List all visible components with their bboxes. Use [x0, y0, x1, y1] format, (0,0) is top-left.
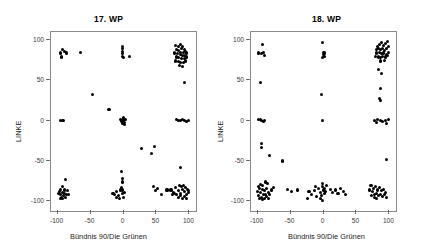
data-point — [64, 196, 67, 199]
data-point — [150, 152, 153, 155]
data-point — [266, 182, 269, 185]
y-axis-tick — [46, 39, 50, 40]
data-point — [57, 192, 60, 195]
data-point — [152, 185, 155, 188]
y-axis-tick — [246, 39, 250, 40]
y-axis-tick — [246, 120, 250, 121]
plot-frame — [50, 31, 197, 212]
data-point — [91, 93, 94, 96]
x-axis-tick-label: -100 — [250, 217, 263, 224]
y-axis-tick — [46, 79, 50, 80]
data-point — [118, 197, 121, 200]
plot-area — [251, 32, 396, 211]
data-point — [179, 166, 182, 169]
data-point — [265, 187, 268, 190]
data-point — [261, 198, 264, 201]
x-axis-tick — [290, 210, 291, 214]
y-axis-tick-label: 50 — [218, 76, 244, 83]
data-point — [290, 190, 293, 193]
data-point — [320, 93, 323, 96]
data-point — [65, 51, 68, 54]
data-point — [185, 51, 188, 54]
data-point — [187, 191, 190, 194]
data-point — [62, 119, 65, 122]
data-point — [263, 119, 266, 122]
data-point — [380, 72, 383, 75]
data-point — [281, 159, 284, 162]
data-point — [375, 197, 378, 200]
data-point — [385, 196, 388, 199]
data-point — [123, 123, 126, 126]
x-axis-tick-label: -50 — [85, 217, 95, 224]
chart-panel-17-wp: 17. WP LINKE Bündnis 90/Die Grünen 10050… — [0, 0, 217, 251]
data-point — [387, 45, 390, 48]
y-axis-tick-label: 100 — [18, 36, 44, 43]
data-point — [268, 154, 271, 157]
x-axis-tick-label: 100 — [183, 217, 194, 224]
x-axis-tick-label: 100 — [383, 217, 394, 224]
data-point — [140, 147, 143, 150]
x-axis-tick — [355, 210, 356, 214]
data-point — [115, 196, 118, 199]
y-axis-tick-label: 100 — [218, 36, 244, 43]
data-point — [184, 59, 187, 62]
data-point — [272, 186, 275, 189]
data-point — [267, 197, 270, 200]
data-point — [321, 56, 324, 59]
data-point — [321, 199, 324, 202]
x-axis-title: Bündnis 90/Die Grünen — [218, 232, 435, 241]
y-axis-title: LINKE — [14, 121, 23, 142]
data-point — [375, 121, 378, 124]
data-point — [171, 193, 174, 196]
data-point — [315, 195, 318, 198]
data-point — [115, 190, 118, 193]
data-point — [259, 81, 262, 84]
x-axis-tick — [388, 210, 389, 214]
data-point — [154, 189, 157, 192]
y-axis-tick-label: -50 — [18, 157, 44, 164]
data-point — [128, 55, 131, 58]
data-point — [387, 118, 390, 121]
data-point — [122, 196, 125, 199]
x-axis-tick-label: 0 — [121, 217, 125, 224]
data-point — [121, 180, 124, 183]
data-point — [306, 197, 309, 200]
data-point — [261, 184, 264, 187]
y-axis-tick — [46, 200, 50, 201]
y-axis-tick — [246, 200, 250, 201]
plot-frame — [250, 31, 397, 212]
data-point — [122, 56, 125, 59]
data-point — [60, 55, 63, 58]
data-point — [321, 119, 324, 122]
data-point — [165, 188, 168, 191]
data-point — [321, 41, 324, 44]
chart-panel-18-wp: 18. WP LINKE Bündnis 90/Die Grünen 10050… — [218, 0, 435, 251]
data-point — [260, 146, 263, 149]
y-axis-tick-label: -100 — [18, 197, 44, 204]
data-point — [344, 193, 347, 196]
data-point — [123, 191, 126, 194]
data-point — [120, 170, 123, 173]
data-point — [386, 54, 389, 57]
data-point — [64, 178, 67, 181]
data-point — [261, 43, 264, 46]
data-point — [385, 158, 388, 161]
data-point — [317, 187, 320, 190]
x-axis-tick — [188, 210, 189, 214]
y-axis-tick-label: -100 — [218, 197, 244, 204]
panel-title: 17. WP — [0, 14, 217, 24]
data-point — [377, 68, 380, 71]
y-axis-tick-label: -50 — [218, 157, 244, 164]
y-axis-tick — [246, 160, 250, 161]
y-axis-tick-label: 0 — [218, 116, 244, 123]
data-point — [379, 87, 382, 90]
x-axis-tick — [155, 210, 156, 214]
data-point — [379, 59, 382, 62]
data-point — [368, 188, 371, 191]
data-point — [107, 108, 110, 111]
data-point — [286, 188, 289, 191]
data-point — [296, 188, 299, 191]
data-point — [59, 197, 62, 200]
panel-title: 18. WP — [218, 14, 435, 24]
y-axis-tick-label: 0 — [18, 116, 44, 123]
